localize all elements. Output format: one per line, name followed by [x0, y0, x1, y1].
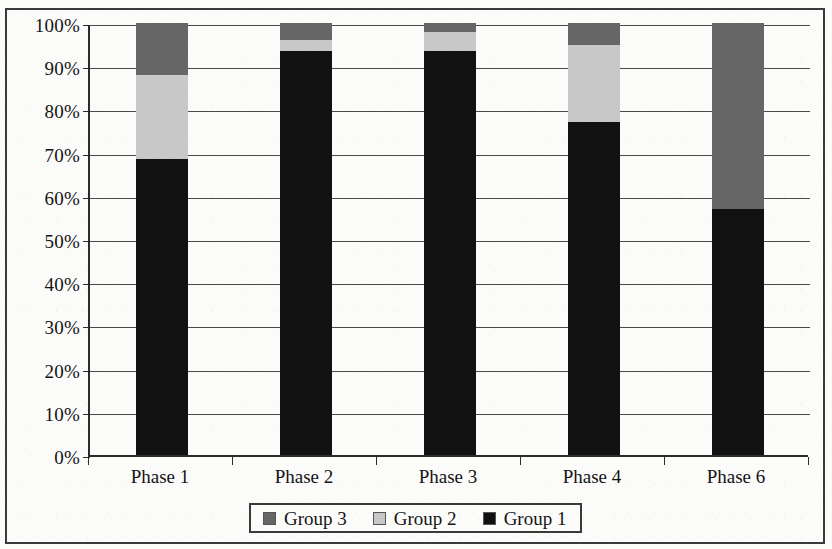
- y-axis: 0%10%20%30%40%50%60%70%80%90%100%: [0, 25, 80, 457]
- bar-segment: [712, 209, 764, 455]
- bar-stack: [424, 23, 476, 455]
- legend-swatch-icon: [263, 512, 276, 525]
- x-tick-label: Phase 2: [232, 467, 376, 486]
- y-tick-label: 90%: [6, 59, 80, 78]
- y-tick-label: 30%: [6, 318, 80, 337]
- legend-swatch-icon: [373, 512, 386, 525]
- bar-segment: [280, 51, 332, 455]
- chart-figure: 0%10%20%30%40%50%60%70%80%90%100% Phase …: [0, 0, 832, 549]
- x-tick-mark: [88, 457, 89, 465]
- y-tick-label: 100%: [6, 16, 80, 35]
- y-tick-label: 10%: [6, 405, 80, 424]
- y-tick-label: 20%: [6, 362, 80, 381]
- y-tick-mark: [83, 25, 90, 26]
- y-tick-mark: [83, 68, 90, 69]
- y-tick-mark: [83, 371, 90, 372]
- bar-stack: [568, 23, 620, 455]
- x-tick-mark: [808, 457, 809, 465]
- chart-legend: Group 3Group 2Group 1: [249, 503, 582, 533]
- legend-item[interactable]: Group 3: [263, 509, 347, 528]
- legend-item[interactable]: Group 2: [373, 509, 457, 528]
- bar-segment: [280, 23, 332, 40]
- bar-segment: [568, 23, 620, 45]
- legend-label: Group 2: [394, 509, 457, 528]
- bar-segment: [712, 23, 764, 209]
- y-tick-mark: [83, 198, 90, 199]
- plot-area: [88, 25, 808, 457]
- bar-stack: [136, 23, 188, 455]
- bar-segment: [568, 122, 620, 455]
- bar-stack: [280, 23, 332, 455]
- x-tick-mark: [664, 457, 665, 465]
- y-tick-label: 70%: [6, 146, 80, 165]
- x-axis-ticks: [88, 457, 810, 466]
- x-tick-label: Phase 1: [88, 467, 232, 486]
- bar-stack: [712, 23, 764, 455]
- bar-segment: [424, 32, 476, 51]
- bar-segment: [424, 23, 476, 32]
- y-tick-label: 80%: [6, 102, 80, 121]
- y-tick-mark: [83, 327, 90, 328]
- bar-segment: [568, 45, 620, 123]
- y-tick-mark: [83, 111, 90, 112]
- y-tick-mark: [83, 241, 90, 242]
- legend-item[interactable]: Group 1: [483, 509, 567, 528]
- y-tick-label: 0%: [6, 448, 80, 467]
- y-tick-label: 50%: [6, 232, 80, 251]
- legend-label: Group 1: [504, 509, 567, 528]
- x-tick-label: Phase 3: [376, 467, 520, 486]
- y-tick-mark: [83, 155, 90, 156]
- bar-segment: [424, 51, 476, 455]
- y-tick-label: 60%: [6, 189, 80, 208]
- bar-segment: [136, 159, 188, 455]
- y-tick-label: 40%: [6, 275, 80, 294]
- x-tick-mark: [232, 457, 233, 465]
- legend-swatch-icon: [483, 512, 496, 525]
- x-axis: Phase 1Phase 2Phase 3Phase 4Phase 6: [88, 467, 808, 493]
- y-tick-mark: [83, 414, 90, 415]
- bar-segment: [136, 23, 188, 75]
- bar-segment: [280, 40, 332, 51]
- x-tick-label: Phase 4: [520, 467, 664, 486]
- legend-label: Group 3: [284, 509, 347, 528]
- bar-segment: [136, 75, 188, 159]
- x-tick-mark: [376, 457, 377, 465]
- x-tick-label: Phase 6: [664, 467, 808, 486]
- y-tick-mark: [83, 284, 90, 285]
- x-tick-mark: [520, 457, 521, 465]
